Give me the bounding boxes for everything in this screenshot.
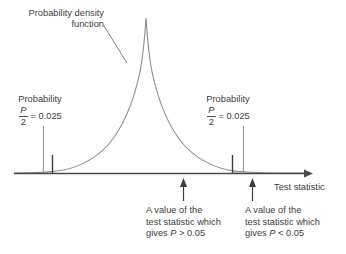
caption-left-line3: gives P > 0.05	[146, 228, 221, 240]
left-probability-title: Probability	[8, 94, 72, 105]
significant-value-caption: A value of the test statistic which give…	[245, 205, 320, 240]
pdf-label-leader-line	[104, 26, 127, 63]
left-probability-fraction: P 2	[18, 106, 28, 127]
non-significant-value-caption: A value of the test statistic which give…	[146, 205, 221, 240]
pdf-callout-line1: Probability density	[29, 8, 104, 18]
caption-right-line2: test statistic which	[245, 217, 320, 229]
caption-right-suffix: < 0.05	[276, 228, 305, 238]
caption-left-line1: A value of the	[146, 205, 221, 217]
right-probability-value: = 0.025	[218, 111, 249, 122]
left-probability-numerator: P	[18, 106, 28, 115]
pdf-callout-label: Probability density function	[6, 8, 104, 31]
left-tail-probability-label: Probability P 2 = 0.025	[8, 94, 72, 127]
caption-left-suffix: > 0.05	[177, 228, 206, 238]
x-axis-label: Test statistic	[274, 182, 325, 192]
right-tail-probability-label: Probability P 2 = 0.025	[196, 94, 260, 127]
left-probability-equation: P 2 = 0.025	[8, 106, 72, 127]
right-probability-equation: P 2 = 0.025	[196, 106, 260, 127]
right-probability-fraction: P 2	[206, 106, 216, 127]
caption-right-line1: A value of the	[245, 205, 320, 217]
two-tailed-test-figure: Probability density function Probability…	[0, 0, 346, 254]
x-axis-arrowhead	[304, 170, 313, 178]
significant-value-arrow	[249, 178, 256, 201]
left-probability-value: = 0.025	[30, 111, 61, 122]
caption-right-line3: gives P < 0.05	[245, 228, 320, 240]
caption-right-prefix: gives	[245, 228, 269, 238]
right-probability-title: Probability	[196, 94, 260, 105]
right-probability-denominator: 2	[209, 118, 214, 127]
caption-left-prefix: gives	[146, 228, 170, 238]
right-probability-numerator: P	[206, 106, 216, 115]
pdf-callout-line2: function	[71, 19, 104, 29]
left-probability-denominator: 2	[21, 118, 26, 127]
caption-left-line2: test statistic which	[146, 217, 221, 229]
non-significant-value-arrow	[180, 178, 187, 201]
